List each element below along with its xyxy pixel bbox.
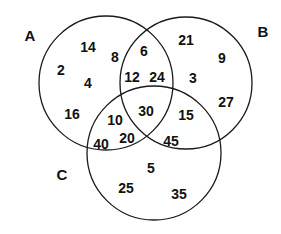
set-circle-c: [87, 86, 221, 220]
region-value: 6: [140, 43, 148, 59]
region-value: 27: [218, 94, 234, 110]
region-value: 15: [178, 107, 194, 123]
set-label-b: B: [258, 23, 269, 40]
region-value: 10: [107, 112, 123, 128]
region-value: 40: [93, 136, 109, 152]
region-value: 20: [119, 130, 135, 146]
region-value: 14: [80, 39, 96, 55]
region-value: 16: [64, 106, 80, 122]
region-value: 24: [149, 69, 165, 85]
region-values: 14824166122421932710402030154552535: [57, 32, 234, 202]
venn-diagram: ABC 14824166122421932710402030154552535: [0, 0, 281, 234]
region-value: 21: [178, 32, 194, 48]
region-value: 3: [189, 70, 197, 86]
region-value: 4: [84, 75, 92, 91]
region-value: 30: [138, 103, 154, 119]
region-value: 35: [171, 186, 187, 202]
region-value: 2: [57, 62, 65, 78]
region-value: 9: [218, 50, 226, 66]
set-label-a: A: [25, 27, 36, 44]
region-value: 8: [111, 49, 119, 65]
set-label-c: C: [57, 166, 68, 183]
region-value: 5: [147, 160, 155, 176]
region-value: 25: [118, 180, 134, 196]
region-value: 45: [163, 133, 179, 149]
region-value: 12: [124, 69, 140, 85]
